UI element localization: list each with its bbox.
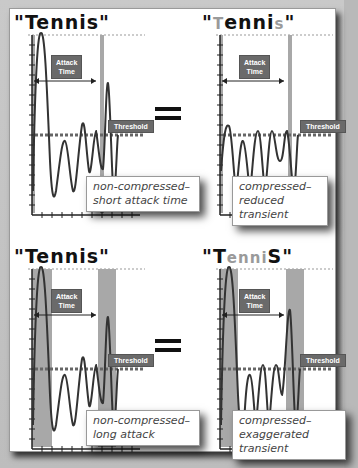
equals-sign-bottom [155,339,181,357]
threshold-label: Threshold [108,354,154,367]
caption-line-1: non-compressed– [93,180,193,194]
attack-time-label: AttackTime [239,55,270,79]
attack-time-label: AttackTime [51,289,82,313]
attack-time-label: AttackTime [239,289,270,313]
title-text: "Tennis" [14,11,110,33]
caption-line-1: compressed– [239,180,321,194]
caption-line-1: non-compressed– [93,414,193,428]
attack-time-label: AttackTime [51,55,82,79]
caption-line-2: exaggerated transient [239,428,339,456]
threshold-label: Threshold [300,120,346,133]
equals-sign-top [155,107,181,125]
caption-box: non-compressed– long attack [86,410,200,446]
quadrant-title: "Tennis" [14,11,110,33]
caption-line-2: reduced transient [239,194,321,222]
threshold-label: Threshold [108,120,154,133]
quadrant-bottom-right: "TenniS" AttackTime Threshold compressed… [198,243,358,463]
threshold-label: Threshold [300,354,346,367]
caption-box: compressed– reduced transient [232,176,328,226]
caption-line-2: long attack [93,428,193,442]
caption-line-2: short attack time [93,194,193,208]
caption-line-1: compressed– [239,414,339,428]
quadrant-bottom-left: "Tennis" AttackTime Threshold non-compre… [10,243,170,463]
caption-box: non-compressed– short attack time [86,176,200,212]
caption-box: compressed– exaggerated transient [232,410,346,460]
quadrant-title: "Tennis" [14,245,110,267]
quadrant-title: "TenniS" [202,245,293,267]
quadrant-top-right: "Tennis" AttackTime Threshold compressed… [198,9,358,229]
quadrant-title: "Tennis" [202,11,295,33]
quadrant-top-left: "Tennis" AttackTime Threshold non-compre… [10,9,170,229]
title-text: "Tennis" [14,245,110,267]
